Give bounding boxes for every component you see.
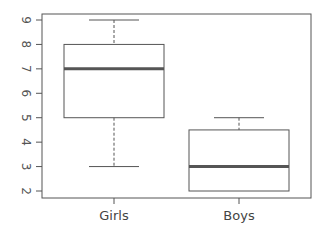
iqr-box [189,130,289,191]
y-tick-label: 2 [19,187,33,195]
boxplot-chart: 23456789GirlsBoys [0,0,324,234]
iqr-box [64,44,164,117]
y-tick-label: 5 [19,114,33,122]
box-boys [189,118,289,191]
y-tick-label: 7 [19,65,33,73]
y-tick-label: 8 [19,41,33,49]
box-girls [64,20,164,167]
x-axis: GirlsBoys [99,198,255,223]
x-tick-label-boys: Boys [223,208,255,223]
y-axis: 23456789 [19,16,42,195]
x-tick-label-girls: Girls [99,208,129,223]
y-tick-label: 3 [19,163,33,171]
y-tick-label: 4 [19,138,33,146]
y-tick-label: 9 [19,16,33,24]
plot-frame [42,14,311,198]
y-tick-label: 6 [19,89,33,97]
